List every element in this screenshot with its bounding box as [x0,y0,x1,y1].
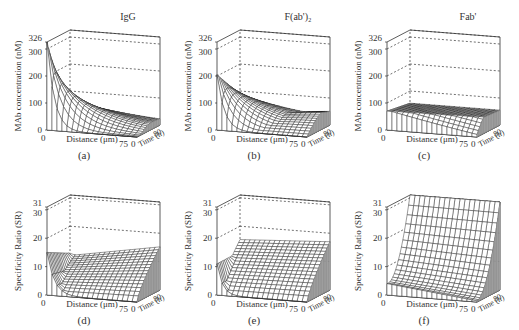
z-tick-label: 100 [29,98,43,108]
x-tick-label: 0 [381,298,386,308]
z-tick-label: 30 [373,208,383,218]
panel-c: 0100200300326MAb concentration (nM)075Di… [340,0,513,165]
z-tick-label: 10 [33,262,43,272]
z-tick-label: 31 [33,198,42,208]
z-axis-label: MAb concentration (nM) [183,41,193,132]
x-tick-label: 75 [119,139,129,149]
panel-caption: (a) [78,149,91,162]
z-tick-label: 100 [369,98,383,108]
z-axis-label: MAb concentration (nM) [353,41,363,132]
z-tick-label: 10 [373,262,383,272]
x-axis-label: Distance (μm) [236,134,288,144]
panel-title: Fab' [460,11,477,22]
x-axis-label: Distance (μm) [406,299,458,309]
z-axis-label: Specificity Ratio (SR) [13,211,23,291]
z-tick-label: 200 [29,71,43,81]
z-axis-label: Specificity Ratio (SR) [353,211,363,291]
panel-e: 010203031Specificity Ratio (SR)075Distan… [170,165,343,330]
surface-plot-b: 0100200300326MAb concentration (nM)075Di… [170,0,343,165]
z-tick-label: 30 [33,208,43,218]
x-axis-label: Distance (μm) [66,299,118,309]
x-tick-label: 75 [459,139,469,149]
surface-mesh [387,195,500,301]
z-tick-label: 31 [373,198,382,208]
z-axis-label: MAb concentration (nM) [13,41,23,132]
x-tick-label: 0 [211,133,216,143]
x-tick-label: 0 [211,298,216,308]
z-tick-label: 300 [199,47,213,57]
panel-caption: (d) [78,314,91,327]
z-axis-label: Specificity Ratio (SR) [183,211,193,291]
panel-f: 010203031Specificity Ratio (SR)075Distan… [340,165,513,330]
x-tick-label: 75 [289,139,299,149]
x-tick-label: 75 [459,304,469,314]
y-tick-label: 0 [471,139,476,149]
panel-d: 010203031Specificity Ratio (SR)075Distan… [0,165,173,330]
x-tick-label: 75 [289,304,299,314]
surface-plot-a: 0100200300326MAb concentration (nM)075Di… [0,0,173,165]
panel-caption: (b) [248,149,261,162]
z-tick-label: 20 [33,233,43,243]
x-tick-label: 75 [119,304,129,314]
z-tick-label: 20 [373,233,383,243]
z-tick-label: 100 [199,98,213,108]
z-tick-label: 300 [29,47,43,57]
z-tick-label: 326 [369,33,383,43]
surface-plot-c: 0100200300326MAb concentration (nM)075Di… [340,0,513,165]
x-axis-label: Distance (μm) [236,299,288,309]
y-tick-label: 0 [131,304,136,314]
panel-title: F(ab')₂ [285,11,312,23]
panel-caption: (f) [419,314,430,327]
y-tick-label: 0 [131,139,136,149]
x-tick-label: 0 [41,133,46,143]
x-axis-label: Distance (μm) [66,134,118,144]
panel-caption: (c) [418,149,431,162]
surface-plot-e: 010203031Specificity Ratio (SR)075Distan… [170,165,343,330]
panel-a: 0100200300326MAb concentration (nM)075Di… [0,0,173,165]
panel-b: 0100200300326MAb concentration (nM)075Di… [170,0,343,165]
z-tick-label: 326 [29,33,43,43]
y-tick-label: 0 [471,304,476,314]
z-tick-label: 30 [203,208,213,218]
surface-plot-d: 010203031Specificity Ratio (SR)075Distan… [0,165,173,330]
z-tick-label: 10 [203,262,213,272]
panel-caption: (e) [248,314,261,327]
y-tick-label: 0 [301,139,306,149]
y-tick-label: 0 [301,304,306,314]
surface-plot-f: 010203031Specificity Ratio (SR)075Distan… [340,165,513,330]
x-tick-label: 0 [41,298,46,308]
z-tick-label: 31 [203,198,212,208]
z-tick-label: 326 [199,33,213,43]
z-tick-label: 200 [199,71,213,81]
z-tick-label: 200 [369,71,383,81]
panel-title: IgG [120,11,136,22]
z-tick-label: 20 [203,233,213,243]
x-tick-label: 0 [381,133,386,143]
z-tick-label: 300 [369,47,383,57]
x-axis-label: Distance (μm) [406,134,458,144]
